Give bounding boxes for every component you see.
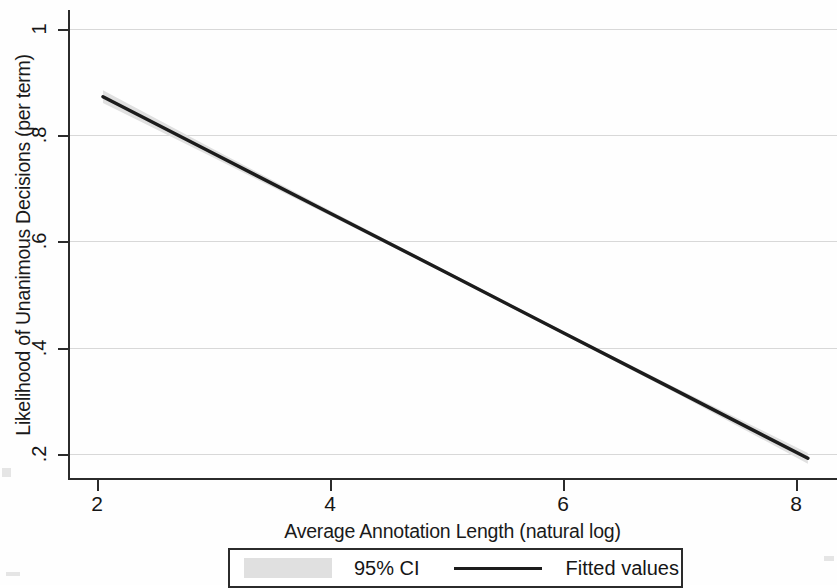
x-tick-label: 6 [543,492,583,516]
y-tick-mark [58,241,69,243]
scan-artifact [2,468,11,477]
y-tick-label: .4 [22,335,56,361]
y-tick-label-text: .8 [28,127,51,144]
gridline [70,135,837,136]
y-tick-label: .2 [22,441,56,467]
y-tick-label-text: .4 [28,340,51,357]
y-tick-mark [58,348,69,350]
x-axis-title: Average Annotation Length (natural log) [68,520,837,543]
scan-artifact [6,572,20,576]
y-tick-mark [58,29,69,31]
gridline [70,29,837,30]
x-tick-label: 4 [310,492,350,516]
x-tick-mark [330,480,332,491]
y-axis-line [68,10,70,480]
fitted-values-line [103,97,808,459]
y-tick-label: .6 [22,228,56,254]
gridline [70,454,837,455]
y-tick-label-text: 1 [28,23,51,34]
y-tick-mark [58,454,69,456]
legend-label-ci: 95% CI [354,557,420,580]
chart-legend: 95% CI Fitted values [228,548,683,588]
x-axis-line [68,478,837,480]
gridline [70,348,837,349]
x-tick-mark [796,480,798,491]
confidence-interval-band [103,90,808,463]
legend-label-fitted: Fitted values [566,557,679,580]
x-tick-mark [97,480,99,491]
y-tick-label: 1 [22,16,56,42]
legend-swatch-ci [244,558,332,578]
y-tick-label: .8 [22,122,56,148]
gridline [70,241,837,242]
y-tick-mark [58,135,69,137]
x-tick-label: 8 [776,492,816,516]
legend-swatch-fitted [454,567,542,570]
y-tick-label-text: .6 [28,233,51,250]
scan-artifact [824,556,834,561]
x-tick-label: 2 [77,492,117,516]
x-tick-mark [563,480,565,491]
y-tick-label-text: .2 [28,446,51,463]
